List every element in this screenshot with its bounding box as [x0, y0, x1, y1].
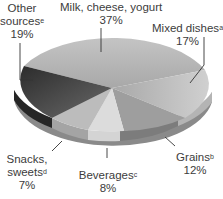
- label-milk: Milk, cheese, yogurt 37%: [60, 1, 162, 27]
- label-snacks-name2: sweetsd: [4, 166, 50, 179]
- label-mixed-name: Mixed dishesa: [152, 22, 223, 35]
- footnote-c: c: [134, 171, 138, 178]
- label-beverages-line1: Beverages: [79, 169, 134, 181]
- label-mixed-line1: Mixed dishes: [152, 22, 219, 34]
- label-snacks-name1: Snacks,: [4, 153, 50, 166]
- label-other-line2: sources: [0, 15, 40, 27]
- label-snacks-line2: sweets: [7, 166, 43, 178]
- label-beverages-pct: 8%: [78, 182, 138, 195]
- label-snacks: Snacks, sweetsd 7%: [4, 153, 50, 192]
- label-milk-pct: 37%: [60, 14, 162, 27]
- label-grains: Grainsb 12%: [172, 151, 218, 177]
- label-milk-name: Milk, cheese, yogurt: [60, 1, 162, 14]
- label-mixed-pct: 17%: [152, 35, 223, 48]
- label-other-pct: 19%: [0, 28, 44, 41]
- label-other-name1: Other: [0, 2, 44, 15]
- footnote-b: b: [210, 153, 214, 160]
- label-grains-line1: Grains: [176, 151, 210, 163]
- label-grains-pct: 12%: [172, 164, 218, 177]
- label-other: Other sourcese 19%: [0, 2, 44, 41]
- label-beverages: Beveragesc 8%: [78, 169, 138, 195]
- label-other-name2: sourcese: [0, 15, 44, 28]
- label-mixed-dishes: Mixed dishesa 17%: [152, 22, 223, 48]
- footnote-d: d: [43, 168, 47, 175]
- label-snacks-pct: 7%: [4, 179, 50, 192]
- footnote-e: e: [40, 17, 44, 24]
- label-grains-name: Grainsb: [172, 151, 218, 164]
- label-beverages-name: Beveragesc: [78, 169, 138, 182]
- footnote-a: a: [219, 24, 223, 31]
